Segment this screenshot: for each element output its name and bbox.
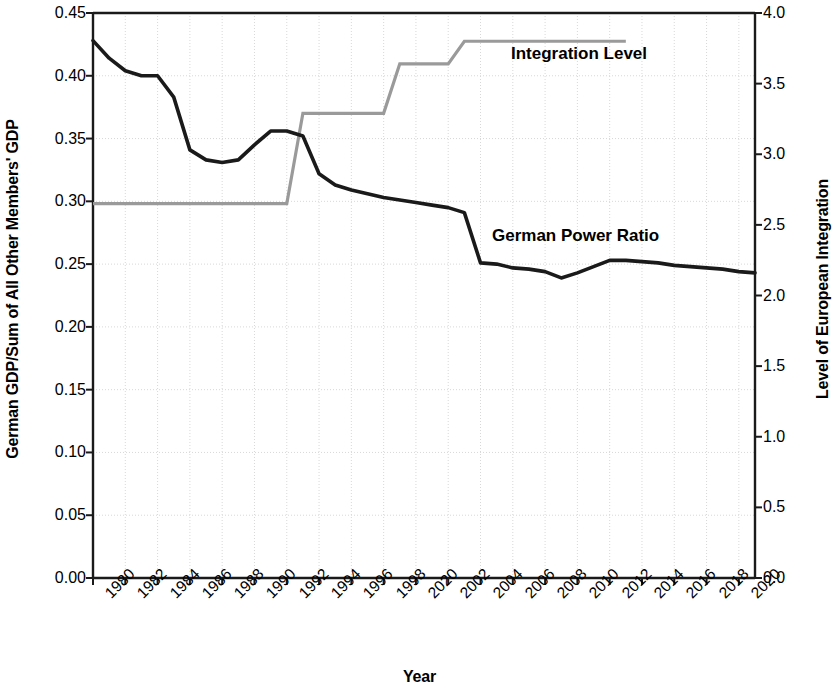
y-axis-left-tick-label: 0.05	[55, 507, 86, 523]
y-axis-left-tick-label: 0.25	[55, 256, 86, 272]
chart-figure: German GDP/Sum of All Other Members' GDP…	[0, 0, 839, 698]
x-axis-title: Year	[0, 668, 839, 686]
series-line-integration-level	[93, 41, 626, 203]
y-axis-left-tick-label: 0.00	[55, 570, 86, 586]
y-axis-left-tick-label: 0.15	[55, 382, 86, 398]
y-axis-right-tick-label: 3.5	[763, 76, 785, 92]
y-axis-left-tick-label: 0.45	[55, 5, 86, 21]
axis-frame	[93, 13, 755, 578]
y-axis-left-title-text: German GDP/Sum of All Other Members' GDP	[4, 119, 22, 458]
series-label-integration-level: Integration Level	[511, 44, 647, 64]
y-axis-left-tick-label: 0.30	[55, 193, 86, 209]
y-axis-right-tick-label: 2.5	[763, 217, 785, 233]
y-axis-left-tick-label: 0.35	[55, 131, 86, 147]
series-label-german-power-ratio: German Power Ratio	[492, 226, 659, 246]
y-axis-right-tick-label: 0.0	[763, 570, 785, 586]
plot-area	[0, 0, 839, 698]
y-axis-right-tick-label: 2.0	[763, 288, 785, 304]
y-axis-right-tick-label: 1.5	[763, 358, 785, 374]
y-axis-left-tick-label: 0.10	[55, 444, 86, 460]
y-axis-right-tick-label: 3.0	[763, 146, 785, 162]
axis-tick-marks	[86, 13, 762, 585]
y-axis-right-ticks: 4.03.53.02.52.01.51.00.50.0	[763, 0, 813, 600]
y-axis-right-title: Level of European Integration	[810, 0, 836, 578]
y-axis-left-tick-label: 0.20	[55, 319, 86, 335]
y-axis-right-tick-label: 1.0	[763, 429, 785, 445]
y-axis-right-title-text: Level of European Integration	[814, 179, 832, 399]
y-axis-right-tick-label: 0.5	[763, 499, 785, 515]
y-axis-right-tick-label: 4.0	[763, 5, 785, 21]
y-axis-left-ticks: 0.450.400.350.300.250.200.150.100.050.00	[26, 0, 86, 600]
y-axis-left-tick-label: 0.40	[55, 68, 86, 84]
y-axis-left-title: German GDP/Sum of All Other Members' GDP	[0, 0, 26, 578]
gridlines	[93, 13, 755, 578]
